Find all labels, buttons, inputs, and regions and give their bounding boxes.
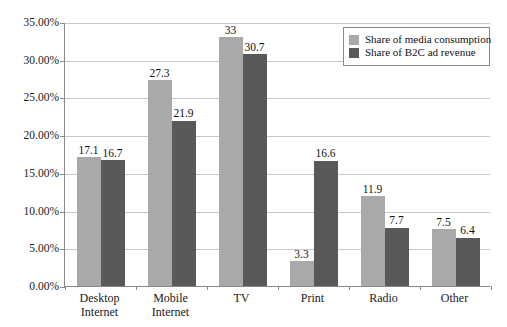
y-axis-tick-label: 5.00% [29, 243, 59, 255]
bar[interactable] [219, 37, 243, 286]
bar-value-label: 27.3 [149, 68, 169, 80]
y-axis-tick-mark [60, 98, 65, 99]
y-axis-tick-mark [60, 61, 65, 62]
x-axis-category-label: Radio [348, 292, 419, 306]
bar[interactable] [243, 54, 267, 286]
legend-item-label: Share of B2C ad revenue [365, 47, 476, 58]
x-axis-tick-mark [349, 286, 350, 290]
legend-item-label: Share of media consumption [365, 34, 491, 45]
bar-value-label: 30.7 [244, 42, 264, 54]
bar[interactable] [172, 121, 196, 286]
bar[interactable] [432, 229, 456, 286]
bar-pair: 3.316.6 [290, 161, 338, 286]
bar[interactable] [385, 228, 409, 286]
bar-group: 3.316.6 [278, 161, 349, 286]
x-axis-tick-mark [420, 286, 421, 290]
bar-value-label: 17.1 [78, 145, 98, 157]
bar-group: 3330.7 [207, 37, 278, 286]
y-axis-tick-label: 15.00% [24, 168, 59, 180]
bar-value-label: 21.9 [173, 108, 193, 120]
bar-holder: 21.9 [172, 121, 196, 286]
y-axis-tick-label: 10.00% [24, 206, 59, 218]
x-axis-category-label: Mobile Internet [135, 292, 206, 320]
bar-pair: 27.321.9 [148, 80, 196, 286]
y-axis-tick-label: 25.00% [24, 92, 59, 104]
bar-value-label: 3.3 [294, 249, 308, 261]
bar-value-label: 33 [225, 25, 237, 37]
bar-pair: 17.116.7 [77, 157, 125, 286]
y-axis-tick-label: 0.00% [29, 281, 59, 293]
bar-holder: 7.5 [432, 229, 456, 286]
bar-value-label: 11.9 [363, 184, 383, 196]
bar[interactable] [148, 80, 172, 286]
y-axis-tick-label: 20.00% [24, 130, 59, 142]
x-axis-tick-mark [278, 286, 279, 290]
bar-holder: 33 [219, 37, 243, 286]
x-axis-category-label: Other [419, 292, 490, 306]
bar-holder: 16.7 [101, 160, 125, 286]
x-axis-tick-mark [491, 286, 492, 290]
y-axis-tick-mark [60, 23, 65, 24]
bar-holder: 6.4 [456, 238, 480, 286]
bar-holder: 16.6 [314, 161, 338, 286]
bar-group: 7.56.4 [420, 229, 491, 286]
x-axis-tick-mark [136, 286, 137, 290]
x-axis-tick-mark [65, 286, 66, 290]
bar[interactable] [456, 238, 480, 286]
bar-holder: 17.1 [77, 157, 101, 286]
bar-pair: 3330.7 [219, 37, 267, 286]
chart-legend: Share of media consumptionShare of B2C a… [343, 27, 490, 66]
bar-value-label: 7.5 [436, 217, 450, 229]
bar-holder: 30.7 [243, 54, 267, 286]
bar-group: 17.116.7 [65, 157, 136, 286]
x-axis-category-label: Print [277, 292, 348, 306]
y-axis-tick-mark [60, 136, 65, 137]
x-axis-tick-mark [207, 286, 208, 290]
x-axis-category-label: Desktop Internet [64, 292, 135, 320]
legend-color-swatch [349, 35, 359, 45]
bar-pair: 11.97.7 [361, 196, 409, 286]
bar-holder: 27.3 [148, 80, 172, 286]
legend-item[interactable]: Share of B2C ad revenue [349, 47, 484, 58]
bar[interactable] [314, 161, 338, 286]
bar[interactable] [77, 157, 101, 286]
bar[interactable] [101, 160, 125, 286]
y-axis-tick-label: 35.00% [24, 17, 59, 29]
bar[interactable] [361, 196, 385, 286]
bar-value-label: 7.7 [389, 215, 403, 227]
y-axis-tick-label: 30.00% [24, 55, 59, 67]
bar-pair: 7.56.4 [432, 229, 480, 286]
bar-value-label: 6.4 [460, 225, 474, 237]
bar[interactable] [290, 261, 314, 286]
bar-value-label: 16.6 [315, 148, 335, 160]
x-axis-category-label: TV [206, 292, 277, 306]
legend-color-swatch [349, 48, 359, 58]
gridline [65, 23, 490, 24]
bar-group: 11.97.7 [349, 196, 420, 286]
bar-value-label: 16.7 [102, 148, 122, 160]
bar-holder: 7.7 [385, 228, 409, 286]
bar-group: 27.321.9 [136, 80, 207, 286]
legend-item[interactable]: Share of media consumption [349, 34, 484, 45]
bar-chart: 0.00%5.00%10.00%15.00%20.00%25.00%30.00%… [0, 0, 507, 327]
bar-holder: 11.9 [361, 196, 385, 286]
bar-holder: 3.3 [290, 261, 314, 286]
